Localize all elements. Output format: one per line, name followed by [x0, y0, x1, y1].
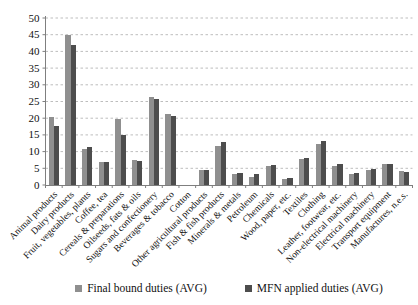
bar-bound-12 — [232, 174, 237, 185]
y-tick-label: 30 — [29, 78, 41, 90]
bar-bound-18 — [332, 166, 337, 185]
bar-bound-22 — [399, 171, 404, 185]
legend-item-mfn-applied: MFN applied duties (AVG) — [245, 282, 383, 294]
y-tick-label: 25 — [29, 95, 41, 107]
y-tick-label: 5 — [34, 162, 40, 174]
bar-applied-12 — [237, 173, 242, 185]
y-tick-label: 45 — [29, 28, 41, 40]
bar-applied-19 — [354, 173, 359, 185]
y-tick-label: 15 — [29, 128, 41, 140]
bar-applied-3 — [87, 147, 92, 185]
bar-applied-13 — [254, 174, 259, 185]
bar-bound-15 — [282, 179, 287, 185]
bar-bound-19 — [349, 174, 354, 185]
bar-bound-14 — [266, 166, 271, 185]
bar-bound-10 — [199, 170, 204, 185]
bar-applied-4 — [104, 162, 109, 185]
bar-applied-6 — [137, 161, 142, 185]
bar-bound-1 — [49, 117, 54, 185]
bar-bound-4 — [99, 162, 104, 185]
y-tick-label: 35 — [29, 62, 41, 74]
bar-applied-8 — [171, 116, 176, 185]
y-tick-label: 50 — [29, 12, 41, 24]
bar-bound-13 — [249, 177, 254, 185]
legend-label: MFN applied duties (AVG) — [257, 282, 383, 294]
bar-bound-3 — [82, 149, 87, 185]
bar-applied-10 — [204, 170, 209, 185]
bar-bound-11 — [215, 146, 220, 185]
y-tick-label: 20 — [29, 112, 41, 124]
bar-applied-5 — [121, 135, 126, 185]
bar-bound-7 — [149, 97, 154, 185]
bar-applied-21 — [387, 164, 392, 185]
bar-applied-20 — [371, 169, 376, 185]
bar-chart-canvas: 05101520253035404550Animal productsDairy… — [0, 0, 418, 305]
y-tick-label: 0 — [34, 179, 40, 191]
legend-swatch-icon — [75, 285, 82, 292]
legend-swatch-icon — [245, 285, 252, 292]
bar-applied-18 — [337, 164, 342, 185]
bar-applied-2 — [71, 45, 76, 185]
bar-applied-7 — [154, 99, 159, 185]
tariff-bar-chart-figure: 05101520253035404550Animal productsDairy… — [0, 0, 418, 305]
bar-bound-16 — [299, 159, 304, 185]
legend-item-final-bound: Final bound duties (AVG) — [75, 282, 207, 294]
bar-applied-14 — [271, 165, 276, 185]
bar-applied-17 — [321, 141, 326, 185]
bar-bound-20 — [366, 170, 371, 185]
bar-applied-16 — [304, 158, 309, 185]
bar-bound-21 — [382, 164, 387, 185]
bar-bound-6 — [132, 160, 137, 185]
y-tick-label: 10 — [29, 145, 41, 157]
bar-bound-2 — [65, 35, 70, 185]
bar-applied-1 — [54, 126, 59, 185]
bar-applied-11 — [221, 142, 226, 185]
bar-applied-15 — [287, 178, 292, 185]
bar-bound-5 — [115, 119, 120, 185]
bar-bound-17 — [316, 144, 321, 185]
bar-applied-22 — [404, 172, 409, 185]
chart-legend: Final bound duties (AVG)MFN applied duti… — [45, 280, 413, 296]
y-tick-label: 40 — [29, 45, 41, 57]
bar-bound-8 — [165, 114, 170, 185]
legend-label: Final bound duties (AVG) — [87, 282, 207, 294]
